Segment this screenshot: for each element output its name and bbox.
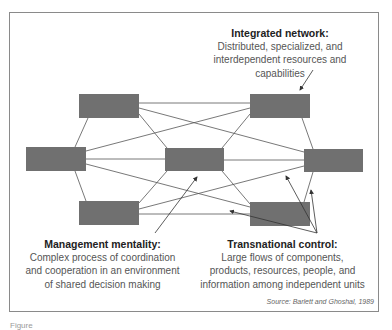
node-top-left: [79, 94, 139, 118]
edge-ml-bl: [75, 171, 86, 201]
node-center: [165, 148, 224, 171]
edge-tr-mr: [302, 118, 313, 149]
transnational-control-title: Transnational control:: [190, 237, 375, 251]
network-nodes: [26, 94, 363, 226]
node-bottom-right: [250, 202, 310, 226]
node-mid-left: [26, 147, 86, 171]
node-mid-right: [304, 149, 363, 172]
transnational-control-annotation: Transnational control: Large flows of co…: [190, 237, 375, 291]
edge-tl-ml: [75, 118, 88, 147]
figure-caption: Figure: [10, 321, 33, 330]
edge-c-br: [222, 171, 250, 204]
transnational-control-line-2: products, resources, people, and: [190, 264, 375, 277]
edge-c-bl: [139, 171, 167, 203]
integrated-network-line-3: capabilities: [205, 67, 355, 80]
management-mentality-line-1: Complex process of coordination: [20, 251, 185, 264]
integrated-network-annotation: Integrated network: Distributed, special…: [205, 26, 355, 80]
management-mentality-line-2: and cooperation in an environment: [20, 264, 185, 277]
source-citation: Source: Barlett and Ghoshal, 1989: [267, 298, 374, 305]
transnational-control-line-3: information among independent units: [190, 278, 375, 291]
management-mentality-title: Management mentality:: [20, 237, 185, 251]
integrated-network-line-2: interdependent resources and: [205, 53, 355, 66]
management-mentality-line-3: of shared decision making: [20, 278, 185, 291]
node-bottom-left: [79, 201, 139, 225]
transnational-control-line-1: Large flows of components,: [190, 251, 375, 264]
integrated-network-title: Integrated network:: [205, 26, 355, 40]
integrated-network-line-1: Distributed, specialized, and: [205, 40, 355, 53]
node-top-right: [250, 94, 310, 118]
arrow-transnational-2: [311, 190, 317, 233]
arrow-management: [155, 177, 197, 233]
management-mentality-annotation: Management mentality: Complex process of…: [20, 237, 185, 291]
